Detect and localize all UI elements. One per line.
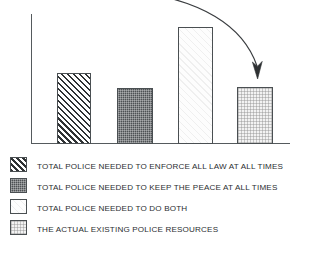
legend-swatch-white-icon xyxy=(10,199,27,214)
bar-actual-existing-resources xyxy=(237,87,273,144)
y-axis-line xyxy=(31,14,32,144)
legend-swatch-light-dotted-icon xyxy=(10,220,27,235)
legend-label-actual-existing-resources: THE ACTUAL EXISTING POLICE RESOURCES xyxy=(37,224,218,233)
chart-legend: TOTAL POLICE NEEDED TO ENFORCE ALL LAW A… xyxy=(0,155,318,239)
police-resources-bar-chart: TOTAL POLICE NEEDED TO ENFORCE ALL LAW A… xyxy=(0,0,318,260)
legend-item-keep-the-peace: TOTAL POLICE NEEDED TO KEEP THE PEACE AT… xyxy=(0,176,318,197)
legend-label-keep-the-peace: TOTAL POLICE NEEDED TO KEEP THE PEACE AT… xyxy=(37,182,277,191)
legend-item-actual-existing-resources: THE ACTUAL EXISTING POLICE RESOURCES xyxy=(0,218,318,239)
legend-item-enforce-all-law: TOTAL POLICE NEEDED TO ENFORCE ALL LAW A… xyxy=(0,155,318,176)
legend-label-enforce-all-law: TOTAL POLICE NEEDED TO ENFORCE ALL LAW A… xyxy=(37,161,283,170)
curved-arrow-head xyxy=(252,61,262,79)
legend-swatch-diagonal-hatch-icon xyxy=(10,157,27,172)
bar-enforce-all-law xyxy=(57,73,91,144)
bar-do-both xyxy=(178,27,213,144)
chart-plot-area xyxy=(0,0,318,150)
legend-label-do-both: TOTAL POLICE NEEDED TO DO BOTH xyxy=(37,203,187,212)
legend-swatch-dark-dotted-icon xyxy=(10,178,27,193)
bar-keep-the-peace xyxy=(117,88,153,144)
legend-item-do-both: TOTAL POLICE NEEDED TO DO BOTH xyxy=(0,197,318,218)
